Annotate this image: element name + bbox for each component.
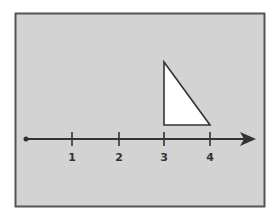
tick-label: 2 (115, 152, 123, 163)
tick-label: 1 (68, 152, 76, 163)
tick-label: 3 (160, 152, 168, 163)
diagram-panel (16, 14, 265, 207)
origin-dot (24, 137, 29, 142)
tick-label: 4 (206, 152, 214, 163)
diagram-stage: 1234 (0, 0, 273, 215)
